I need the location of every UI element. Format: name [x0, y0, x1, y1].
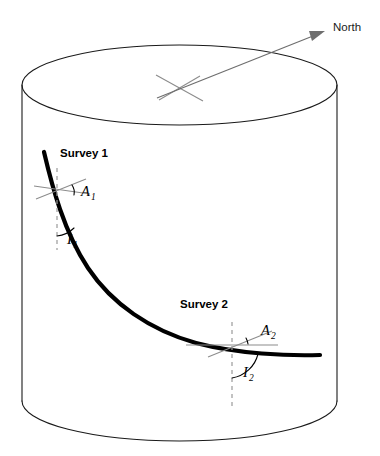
wellbore-survey-diagram: North Survey 1 A 1 I 1	[0, 0, 380, 456]
svg-text:1: 1	[73, 240, 78, 250]
north-label: North	[333, 21, 361, 33]
svg-text:2: 2	[271, 331, 276, 341]
svg-text:2: 2	[249, 373, 254, 383]
svg-text:A: A	[80, 183, 90, 199]
cylinder-body-fill	[22, 85, 337, 441]
survey-2-label: Survey 2	[180, 298, 228, 310]
svg-text:1: 1	[91, 192, 96, 202]
svg-text:A: A	[260, 322, 270, 338]
north-arrowhead	[309, 31, 325, 41]
survey-1-label: Survey 1	[60, 147, 109, 159]
